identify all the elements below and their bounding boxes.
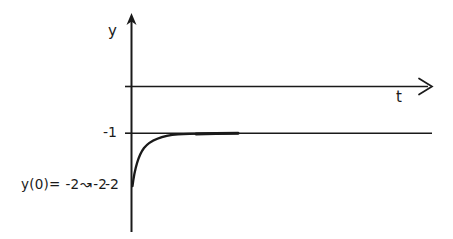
axes-group [127,13,433,232]
y-axis-label: y [108,24,117,39]
y-tick-label-minus-one: -1 [103,125,117,139]
initial-condition-annotation: y(0)=-2↝-2 [21,177,107,192]
solution-curve-group [133,133,239,186]
solution-curve-figure: y t -1 -2 y(0)=-2↝-2 [0,0,453,239]
t-axis-label: t [396,90,402,105]
limiting-value: -2 [93,176,107,192]
squiggly-arrow-icon: ↝ [79,176,93,192]
solution-curve-path [133,133,239,186]
initial-condition-value: -2 [65,176,79,192]
solution-curve-merge-segment [196,133,238,134]
initial-condition-prefix: y(0)= [21,176,60,192]
plot-canvas [0,0,453,239]
